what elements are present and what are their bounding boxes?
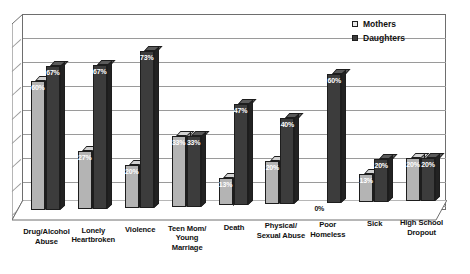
bar-daughters-8[interactable]: 20%: [421, 153, 435, 201]
bar-value-label: 0%: [312, 205, 326, 213]
bar-daughters-3[interactable]: 33%: [187, 131, 201, 207]
bar-face: [234, 104, 248, 205]
bar-side-face: [201, 131, 206, 206]
legend-item-daughters[interactable]: Daughters: [352, 32, 405, 44]
bar-daughters-5[interactable]: 40%: [280, 113, 294, 204]
bar-daughters-2[interactable]: 73%: [140, 46, 154, 208]
legend-item-mothers[interactable]: Mothers: [352, 18, 405, 30]
bar-value-label: 13%: [219, 181, 233, 189]
bar-face: [327, 74, 341, 203]
bar-side-face: [248, 100, 253, 206]
category-label-line: High School: [389, 218, 454, 228]
bar-value-label: 20%: [421, 161, 435, 169]
bar-face: [93, 65, 107, 209]
gridline: [23, 86, 446, 87]
bar-mothers-2[interactable]: 20%: [125, 160, 139, 208]
bar-daughters-0[interactable]: 67%: [46, 61, 60, 210]
bar-side-face: [154, 46, 159, 207]
bar-daughters-4[interactable]: 47%: [234, 99, 248, 205]
category-label-line: Marriage: [155, 243, 220, 253]
bar-value-label: 67%: [46, 69, 60, 77]
bar-side-face: [294, 114, 299, 205]
bar-value-label: 20%: [125, 168, 139, 176]
dark-square-icon: [352, 35, 358, 41]
category-label-line: Heartbroken: [61, 235, 126, 245]
chart-legend: Mothers Daughters: [352, 18, 405, 46]
bar-daughters-6[interactable]: 60%: [327, 69, 341, 203]
bar-mothers-7[interactable]: 13%: [359, 169, 373, 202]
bar-value-label: 60%: [327, 77, 341, 85]
bar-face: [280, 118, 294, 204]
bar-value-label: 73%: [140, 54, 154, 62]
bar-mothers-6[interactable]: 0%: [312, 198, 326, 203]
bar-side-face: [107, 60, 112, 209]
bar-mothers-8[interactable]: 20%: [406, 153, 420, 201]
bar-value-label: 40%: [280, 121, 294, 129]
light-square-icon: [352, 21, 358, 27]
bar-value-label: 20%: [406, 161, 420, 169]
bar-side-face: [388, 155, 393, 203]
bar-mothers-1[interactable]: 27%: [78, 146, 92, 209]
bar-chart: 60%27%20%33%13%20%0%13%20%67%67%73%33%47…: [0, 0, 470, 274]
bar-face: [140, 51, 154, 208]
bar-value-label: 33%: [172, 139, 186, 147]
category-label-line: Young: [155, 233, 220, 243]
bar-value-label: 67%: [93, 68, 107, 76]
bar-value-label: 20%: [374, 162, 388, 170]
bar-side-face: [341, 70, 346, 204]
bar-face: [46, 66, 60, 210]
bar-value-label: 47%: [234, 107, 248, 115]
bar-value-label: 60%: [31, 84, 45, 92]
category-label-line: Homeless: [295, 230, 360, 240]
bar-value-label: 20%: [265, 164, 279, 172]
bar-face: [31, 81, 45, 210]
category-label-line: Dropout: [389, 228, 454, 238]
legend-label-daughters: Daughters: [363, 33, 405, 43]
bar-mothers-5[interactable]: 20%: [265, 156, 279, 204]
legend-label-mothers: Mothers: [363, 19, 396, 29]
bar-daughters-7[interactable]: 20%: [374, 154, 388, 202]
bar-mothers-3[interactable]: 33%: [172, 131, 186, 207]
bar-daughters-1[interactable]: 67%: [93, 60, 107, 209]
bar-value-label: 33%: [187, 139, 201, 147]
bar-value-label: 27%: [78, 154, 92, 162]
bar-value-label: 13%: [359, 177, 373, 185]
bar-mothers-4[interactable]: 13%: [219, 173, 233, 206]
category-label-8: High SchoolDropout: [389, 218, 454, 237]
gridline: [23, 62, 446, 63]
bar-mothers-0[interactable]: 60%: [31, 76, 45, 210]
bar-side-face: [435, 153, 440, 201]
bar-side-face: [60, 61, 65, 210]
